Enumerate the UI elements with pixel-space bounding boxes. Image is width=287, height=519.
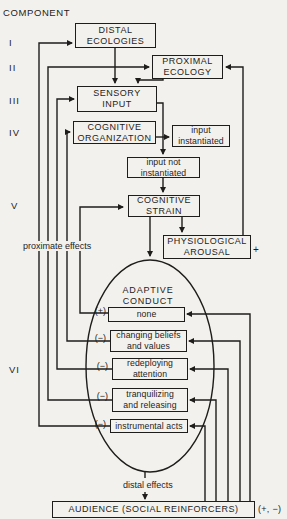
edge-audience-to-tranquilizing <box>190 400 216 501</box>
component-numeral-i: I <box>9 37 13 48</box>
cropped-page-title-text: COGNITIVE STRAIN MODEL <box>60 0 232 2</box>
sign-none: (+) <box>88 306 106 316</box>
component-numeral-vi: VI <box>9 364 20 375</box>
adaptive-conduct-title: ADAPTIVE CONDUCT <box>112 285 184 308</box>
node-distal-ecologies: DISTAL ECOLOGIES <box>75 23 156 48</box>
node-audience: AUDIENCE (SOCIAL REINFORCERS) <box>52 501 255 518</box>
sign-tranquilizing: (−) <box>90 391 108 401</box>
node-instrumental-acts: instrumental acts <box>110 419 188 433</box>
node-cognitive-organization: COGNITIVE ORGANIZATION <box>73 121 156 144</box>
edges-layer <box>0 0 287 519</box>
component-numeral-v: V <box>11 200 18 211</box>
sign-instrumental: (−) <box>88 419 106 429</box>
component-numeral-iv: IV <box>9 127 20 138</box>
node-physiological-arousal: PHYSIOLOGICAL AROUSAL <box>163 235 251 259</box>
cropped-page-title: COGNITIVE STRAIN MODEL <box>60 0 232 4</box>
node-none: none <box>108 307 185 322</box>
component-numeral-ii: II <box>9 62 16 73</box>
diagram-page: COGNITIVE STRAIN MODEL COMPONENT I II II… <box>0 0 287 519</box>
node-changing-beliefs: changing beliefs and values <box>110 330 187 352</box>
sign-redeploying: (−) <box>90 361 108 371</box>
edge-physiological-arousal-to-proximal-ecology <box>226 67 243 235</box>
proximate-effects-label: proximate effects <box>21 241 93 251</box>
node-cognitive-strain: COGNITIVE STRAIN <box>128 195 200 217</box>
node-redeploying: redeploying attention <box>112 358 188 380</box>
edge-sensory-to-input-not-instantiated <box>156 103 163 154</box>
node-tranquilizing: tranquilizing and releasing <box>112 388 188 412</box>
component-header: COMPONENT <box>3 7 70 18</box>
audience-plus-minus-sign: (+, −) <box>258 504 281 514</box>
node-sensory-input: SENSORY INPUT <box>77 86 157 112</box>
node-input-instantiated: input instantiated <box>172 125 230 147</box>
node-input-not-instantiated: input not instantiated <box>127 157 200 178</box>
edge-audience-to-redeploying <box>190 369 228 501</box>
physiological-arousal-plus-sign: + <box>253 244 259 255</box>
sign-changing-beliefs: (−) <box>88 333 106 343</box>
node-proximal-ecology: PROXIMAL ECOLOGY <box>152 55 223 79</box>
component-numeral-iii: III <box>9 95 20 106</box>
distal-effects-label: distal effects <box>121 480 175 490</box>
edge-proximal-to-sensory <box>138 79 163 83</box>
